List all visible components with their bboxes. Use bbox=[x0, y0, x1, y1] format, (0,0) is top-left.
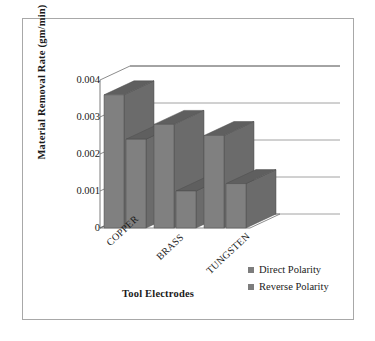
y-axis-tick-label: 0.002 bbox=[56, 149, 100, 159]
bar-front-face bbox=[104, 95, 124, 228]
legend-label: Reverse Polarity bbox=[259, 278, 329, 295]
y-axis-title: Material Removal Rate (gm/min) bbox=[36, 0, 56, 172]
legend-swatch-icon bbox=[248, 284, 254, 290]
y-axis-tick bbox=[100, 66, 130, 80]
legend-item-direct-polarity: Direct Polarity bbox=[248, 261, 329, 278]
y-axis-tick-label: 0.003 bbox=[56, 112, 100, 122]
bar-front-face bbox=[176, 191, 196, 228]
bar-front-face bbox=[226, 184, 246, 228]
bar-front-face bbox=[204, 136, 224, 229]
y-axis-tick-labels: 0.0040.0030.0020.0010 bbox=[56, 0, 100, 341]
x-axis-title: Tool Electrodes bbox=[122, 288, 194, 299]
y-axis-tick-label: 0.001 bbox=[56, 186, 100, 196]
legend-label: Direct Polarity bbox=[259, 261, 321, 278]
y-axis-tick-label: 0.004 bbox=[56, 75, 100, 85]
chart-legend: Direct Polarity Reverse Polarity bbox=[248, 261, 329, 295]
legend-swatch-icon bbox=[248, 267, 254, 273]
y-axis-tick-label: 0 bbox=[56, 223, 100, 233]
bar-front-face bbox=[154, 124, 174, 228]
legend-item-reverse-polarity: Reverse Polarity bbox=[248, 278, 329, 295]
